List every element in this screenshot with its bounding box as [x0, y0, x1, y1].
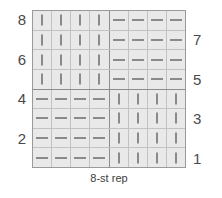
stitch-cell-purl: [52, 90, 71, 109]
stitch-cell-knit: [52, 11, 71, 30]
stitch-cell-purl: [167, 11, 185, 30]
stitch-cell-knit: [71, 70, 90, 89]
chart-row: [33, 11, 185, 31]
chart-row: [33, 148, 185, 167]
chart-row: [33, 90, 185, 110]
stitch-cell-purl: [33, 129, 52, 148]
chart-row: [33, 70, 185, 90]
chart-caption: 8-st rep: [32, 172, 186, 185]
stitch-cell-purl: [90, 90, 109, 109]
chart-row: [33, 129, 185, 149]
stitch-cell-purl: [110, 70, 129, 89]
stitch-cell-purl: [129, 31, 148, 50]
stitch-cell-knit: [148, 109, 167, 128]
stitch-cell-purl: [33, 90, 52, 109]
stitch-cell-knit: [129, 109, 148, 128]
stitch-cell-purl: [71, 129, 90, 148]
stitch-cell-knit: [167, 90, 185, 109]
stitch-cell-knit: [129, 90, 148, 109]
stitch-cell-purl: [110, 50, 129, 69]
stitch-cell-purl: [110, 31, 129, 50]
stitch-cell-knit: [90, 11, 109, 30]
stitch-cell-purl: [110, 11, 129, 30]
stitch-cell-knit: [110, 109, 129, 128]
stitch-cell-knit: [110, 129, 129, 148]
stitch-cell-knit: [148, 148, 167, 167]
stitch-cell-knit: [148, 129, 167, 148]
knitting-chart-figure: 8 6 4 2: [0, 0, 222, 198]
stitch-cell-purl: [71, 90, 90, 109]
stitch-cell-purl: [167, 70, 185, 89]
stitch-cell-knit: [110, 148, 129, 167]
stitch-cell-knit: [90, 50, 109, 69]
stitch-cell-purl: [52, 148, 71, 167]
stitch-cell-knit: [167, 148, 185, 167]
stitch-cell-knit: [167, 109, 185, 128]
stitch-cell-purl: [148, 70, 167, 89]
stitch-cell-knit: [71, 31, 90, 50]
stitch-cell-purl: [33, 148, 52, 167]
stitch-cell-purl: [52, 109, 71, 128]
chart-row: [33, 31, 185, 51]
stitch-cell-purl: [148, 31, 167, 50]
row-number-right: 1: [188, 148, 218, 168]
stitch-cell-knit: [148, 90, 167, 109]
stitch-cell-knit: [110, 90, 129, 109]
stitch-cell-purl: [52, 129, 71, 148]
row-numbers-right-gutter: 7 5 3 1: [188, 10, 218, 168]
stitch-cell-knit: [33, 70, 52, 89]
stitch-cell-knit: [90, 70, 109, 89]
stitch-cell-knit: [90, 31, 109, 50]
stitch-cell-knit: [129, 148, 148, 167]
row-numbers-left-gutter: 8 6 4 2: [2, 10, 32, 168]
stitch-cell-purl: [148, 50, 167, 69]
stitch-cell-knit: [33, 31, 52, 50]
stitch-grid: [32, 10, 186, 168]
stitch-cell-purl: [33, 109, 52, 128]
row-number-left: 8: [2, 10, 32, 30]
stitch-cell-knit: [52, 70, 71, 89]
chart-row: [33, 109, 185, 129]
stitch-cell-knit: [33, 50, 52, 69]
stitch-cell-purl: [167, 50, 185, 69]
row-number-left: 4: [2, 89, 32, 109]
stitch-cell-purl: [129, 70, 148, 89]
row-number-right: 5: [188, 69, 218, 89]
row-number-left: 2: [2, 129, 32, 149]
stitch-cell-purl: [167, 31, 185, 50]
stitch-cell-knit: [52, 31, 71, 50]
row-number-left: 6: [2, 50, 32, 70]
stitch-cell-knit: [71, 50, 90, 69]
stitch-cell-purl: [71, 148, 90, 167]
chart-row: [33, 50, 185, 70]
stitch-cell-knit: [167, 129, 185, 148]
stitch-cell-knit: [129, 129, 148, 148]
row-number-right: 3: [188, 109, 218, 129]
stitch-cell-purl: [129, 11, 148, 30]
stitch-cell-purl: [90, 148, 109, 167]
row-number-right: 7: [188, 30, 218, 50]
stitch-cell-purl: [90, 129, 109, 148]
stitch-cell-purl: [71, 109, 90, 128]
stitch-cell-purl: [129, 50, 148, 69]
stitch-cell-purl: [148, 11, 167, 30]
stitch-cell-knit: [71, 11, 90, 30]
stitch-cell-knit: [52, 50, 71, 69]
stitch-cell-purl: [90, 109, 109, 128]
stitch-cell-knit: [33, 11, 52, 30]
